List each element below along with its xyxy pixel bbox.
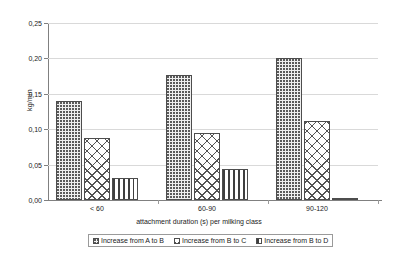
x-axis-tickmark [158,200,159,204]
y-axis-tick-label: 0,00 [16,197,42,204]
y-axis-tick-label: 0,10 [16,126,42,133]
legend-swatch-icon [174,238,180,244]
y-axis-tick-label: 0,25 [16,20,42,27]
plot-area [48,23,378,200]
gridline [48,23,378,24]
bar [56,101,82,200]
y-axis-tickmark [44,58,48,59]
bar [332,198,358,200]
bar [304,121,330,200]
y-axis-tickmark [44,165,48,166]
legend-swatch-icon [256,238,262,244]
y-axis-tickmark [44,23,48,24]
y-axis-tick-label: 0,15 [16,91,42,98]
bar [276,58,302,200]
x-axis-tickmark [268,200,269,204]
bar [112,178,138,200]
y-axis-tickmark [44,94,48,95]
y-axis-tick-label: 0,20 [16,55,42,62]
y-axis-tickmark [44,129,48,130]
bar [194,133,220,200]
x-axis-tickmark [378,200,379,204]
legend-label: Increase from B to D [264,237,328,244]
legend-label: Increase from B to C [182,237,246,244]
gridline [48,94,378,95]
bar [166,75,192,200]
legend-swatch-icon [93,238,99,244]
gridline [48,58,378,59]
x-axis-category-label: 60-90 [177,205,237,212]
legend: Increase from A to BIncrease from B to C… [88,234,333,247]
x-axis-title: attachment duration (s) per milking clas… [0,218,398,225]
bar [222,169,248,200]
bar [84,138,110,200]
x-axis-category-label: < 60 [67,205,127,212]
x-axis-line [44,200,382,201]
legend-label: Increase from A to B [101,237,164,244]
bar-chart: kg/min 0,000,050,100,150,200,25 < 6060-9… [0,0,398,261]
y-axis-tick-label: 0,05 [16,162,42,169]
legend-item[interactable]: Increase from B to D [256,237,328,244]
legend-item[interactable]: Increase from A to B [93,237,164,244]
y-axis-tickmark [44,200,48,201]
x-axis-category-label: 90-120 [287,205,347,212]
legend-item[interactable]: Increase from B to C [174,237,246,244]
